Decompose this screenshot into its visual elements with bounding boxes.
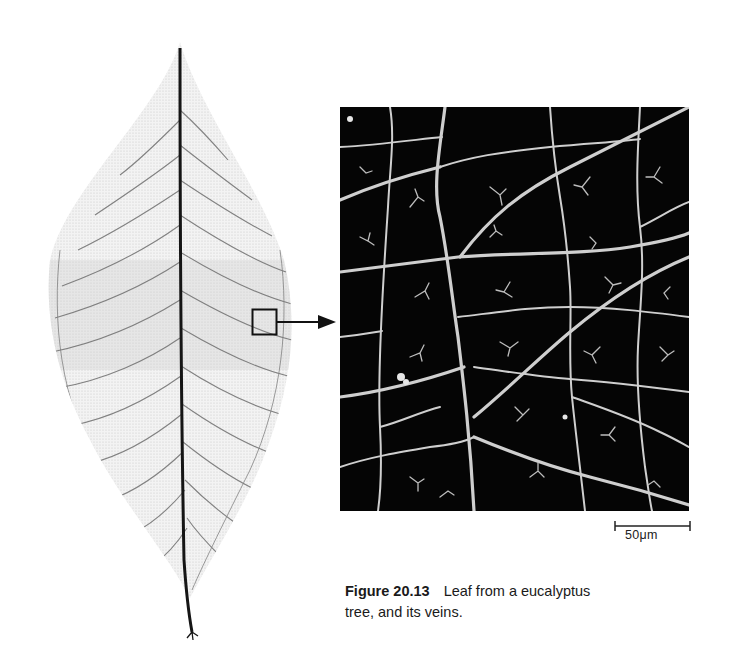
vein-micrograph <box>340 107 689 511</box>
figure-number: Figure 20.13 <box>345 583 430 599</box>
caption-line-1: Leaf from a eucalyptus <box>444 583 591 599</box>
leaf-blade <box>40 42 300 598</box>
leaf-illustration <box>0 0 340 666</box>
caption-line-2: tree, and its veins. <box>345 604 463 620</box>
scale-bar-label: 50μm <box>625 528 658 542</box>
figure-caption: Figure 20.13Leaf from a eucalyptus tree,… <box>345 581 725 623</box>
leaf-petiole-tip <box>187 632 198 640</box>
vein-network <box>340 107 689 511</box>
